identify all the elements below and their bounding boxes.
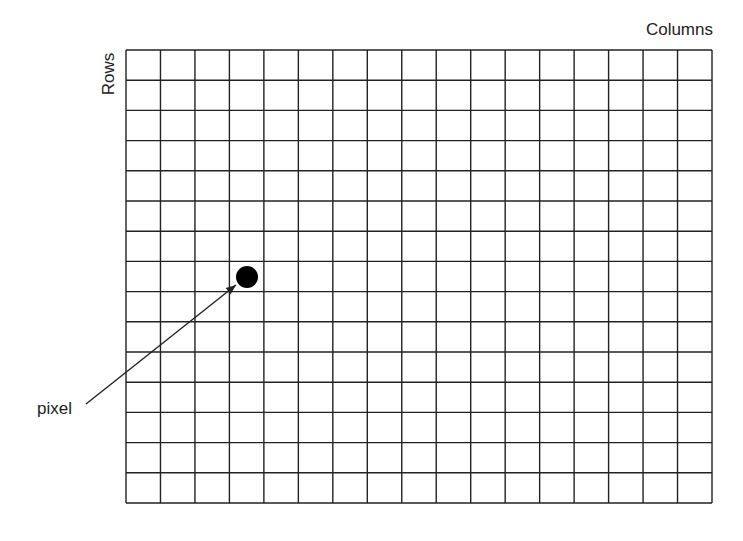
grid-lines <box>126 50 712 503</box>
columns-axis-label: Columns <box>646 20 713 40</box>
arrow-head-icon <box>226 285 236 294</box>
highlighted-pixel-dot <box>236 266 258 288</box>
rows-axis-label: Rows <box>99 53 119 96</box>
pixel-callout-label: pixel <box>37 399 72 419</box>
